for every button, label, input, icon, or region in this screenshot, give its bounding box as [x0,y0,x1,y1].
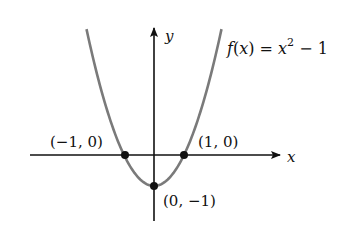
function-label: f(x) = x2 − 1 [226,36,328,58]
point-1-0 [180,151,188,159]
label-neg1-0: (−1, 0) [50,133,103,151]
x-axis-label: x [287,148,296,166]
parabola-graph: y x f(x) = x2 − 1 (−1, 0) (1, 0) (0, −1) [0,0,364,234]
label-1-0: (1, 0) [198,133,238,151]
y-axis-label: y [164,27,174,45]
point-neg1-0 [121,151,129,159]
label-0-neg1: (0, −1) [163,192,216,210]
point-0-neg1 [150,182,158,190]
